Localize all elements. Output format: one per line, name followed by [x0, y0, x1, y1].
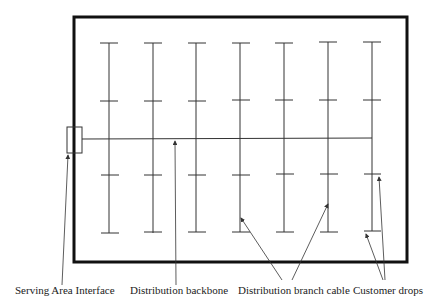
- branch-leader-2: [292, 204, 328, 280]
- sai-leader: [62, 155, 68, 285]
- branch-4: [232, 43, 250, 232]
- branch-cable-label: Distribution branch cable: [238, 284, 350, 296]
- drops-leader-1: [366, 234, 383, 280]
- distribution-network-diagram: [0, 0, 438, 306]
- backbone-label: Distribution backbone: [130, 284, 228, 296]
- branch-1: [100, 43, 119, 233]
- drops-leader-2: [379, 177, 385, 280]
- branch-leader-1: [241, 218, 282, 280]
- branch-7: [363, 42, 381, 231]
- branch-5: [275, 43, 294, 232]
- sai-label: Serving Area Interface: [15, 284, 115, 296]
- customer-drops-label: Customer drops: [353, 284, 423, 296]
- branch-2: [144, 43, 162, 233]
- branch-3: [188, 43, 206, 232]
- branch-6: [319, 42, 338, 232]
- branch-cables: [100, 42, 381, 233]
